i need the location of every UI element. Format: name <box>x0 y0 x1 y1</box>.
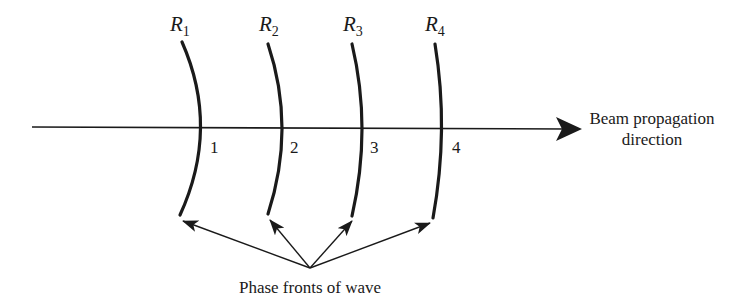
diagram-svg: R1 R2 R3 R4 1 2 3 4 Beam propagation dir… <box>0 0 752 308</box>
phase-front-4 <box>433 44 442 218</box>
radius-labels: R1 R2 R3 R4 <box>169 12 445 39</box>
phase-fronts <box>180 42 442 218</box>
phase-front-1 <box>180 42 201 215</box>
position-label-1: 1 <box>210 138 219 157</box>
diagram-canvas: R1 R2 R3 R4 1 2 3 4 Beam propagation dir… <box>0 0 752 308</box>
axis-label-line-1: Beam propagation <box>589 109 715 128</box>
radius-label-2: R2 <box>258 12 279 39</box>
position-labels: 1 2 3 4 <box>210 138 461 157</box>
position-label-3: 3 <box>370 138 379 157</box>
radius-label-3: R3 <box>342 12 363 39</box>
radius-label-4: R4 <box>424 12 445 39</box>
radius-label-1: R1 <box>169 12 190 39</box>
axis-label: Beam propagation direction <box>589 109 715 149</box>
pointer-arrows <box>183 220 430 268</box>
pointer-arrow-4 <box>310 223 430 268</box>
phase-front-2 <box>268 44 282 214</box>
position-label-4: 4 <box>452 138 461 157</box>
position-label-2: 2 <box>290 138 299 157</box>
phase-front-3 <box>352 44 362 216</box>
caption-phase-fronts: Phase fronts of wave <box>239 278 381 297</box>
propagation-axis <box>32 117 582 141</box>
axis-label-line-2: direction <box>622 130 683 149</box>
pointer-arrow-3 <box>310 221 352 268</box>
